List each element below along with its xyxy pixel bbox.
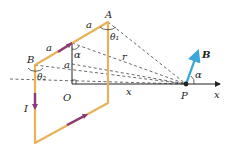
label-P: P: [180, 90, 188, 101]
label-current-I: I: [23, 103, 29, 114]
alpha-P-arc: [191, 76, 194, 84]
point-P: [184, 82, 189, 87]
label-x-distance: x: [126, 86, 132, 97]
label-theta2: θ₂: [37, 72, 46, 82]
label-a-top-right: a: [86, 19, 92, 30]
label-alpha-top: α: [74, 49, 81, 60]
square-loop-diagram: A B O P x x r I a a a α α θ₁ θ₂ B: [0, 0, 230, 156]
label-B-point: B: [26, 54, 34, 65]
label-x-axis: x: [214, 89, 220, 100]
label-theta1: θ₁: [110, 32, 119, 42]
label-r: r: [122, 51, 128, 62]
line-B-to-P: [35, 65, 186, 84]
label-a-top-left: a: [46, 42, 52, 53]
label-alpha-P: α: [195, 69, 202, 80]
label-O: O: [63, 92, 71, 103]
arrowhead-left: [32, 104, 38, 110]
line-r: [72, 43, 186, 84]
line-A-to-P: [108, 22, 186, 84]
label-B-field: B: [201, 49, 210, 60]
label-A: A: [104, 9, 112, 20]
label-a-vertical: a: [64, 59, 70, 70]
